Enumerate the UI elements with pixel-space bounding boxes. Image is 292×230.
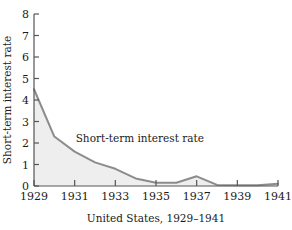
y-axis-title: Short-term interest rate <box>1 36 13 164</box>
x-axis-tick-label: 1935 <box>142 190 170 203</box>
series-inline-label: Short-term interest rate <box>76 132 204 144</box>
x-axis-tick-label: 1929 <box>20 190 48 203</box>
y-axis-tick-label: 3 <box>22 116 29 129</box>
series-annotations: Short-term interest rate <box>76 132 204 144</box>
y-axis-tick-label: 1 <box>22 159 29 172</box>
y-axis-tick-label: 6 <box>22 51 29 64</box>
x-axis-tick-label: 1939 <box>223 190 251 203</box>
x-axis-tick-label: 1941 <box>264 190 292 203</box>
x-axis-tick-label: 1933 <box>101 190 129 203</box>
y-axis-tick-label: 7 <box>22 30 29 43</box>
x-axis-tick-label: 1931 <box>61 190 89 203</box>
x-axis-tick-label: 1937 <box>183 190 211 203</box>
y-axis-tick-labels: 012345678 <box>22 8 29 193</box>
chart-figure: 012345678 Short-term interest rate 19291… <box>0 0 292 230</box>
chart-caption: United States, 1929–1941 <box>87 212 225 224</box>
y-axis-tick-label: 4 <box>22 94 29 107</box>
y-axis-tick-label: 2 <box>22 137 29 150</box>
y-axis-tick-label: 5 <box>22 73 29 86</box>
short-term-interest-rate-area-chart: 012345678 Short-term interest rate 19291… <box>0 0 292 230</box>
y-axis-tick-label: 8 <box>22 8 29 21</box>
x-axis-tick-labels: 1929193119331935193719391941 <box>20 190 292 203</box>
